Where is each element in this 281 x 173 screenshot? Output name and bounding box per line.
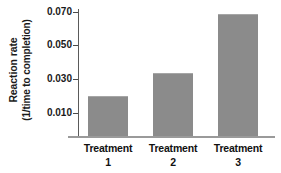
y-axis-spine bbox=[78, 9, 79, 137]
x-label-treatment-3-number: 3 bbox=[201, 155, 275, 169]
y-tick-mark-0050 bbox=[73, 45, 78, 46]
x-label-treatment-1: Treatment 1 bbox=[71, 141, 145, 169]
y-tick-label-0030: 0.030 bbox=[30, 73, 72, 84]
x-axis-spine bbox=[68, 136, 275, 138]
x-label-treatment-1-name: Treatment bbox=[84, 142, 132, 154]
x-label-treatment-1-number: 1 bbox=[71, 155, 145, 169]
y-axis-ticks: 0.070 0.050 0.030 0.010 bbox=[0, 0, 78, 173]
x-label-treatment-2: Treatment 2 bbox=[136, 141, 210, 169]
y-tick-mark-0010 bbox=[73, 113, 78, 114]
y-tick-mark-0030 bbox=[73, 79, 78, 80]
y-tick-label-0070: 0.070 bbox=[30, 6, 72, 17]
y-tick-mark-0070 bbox=[73, 12, 78, 13]
bar-chart-figure: Reaction rate (1/time to completion) 0.0… bbox=[0, 0, 281, 173]
y-tick-label-0010: 0.010 bbox=[30, 107, 72, 118]
bar-treatment-2 bbox=[153, 73, 193, 136]
x-label-treatment-3: Treatment 3 bbox=[201, 141, 275, 169]
bar-treatment-3 bbox=[218, 14, 258, 136]
y-tick-label-0050: 0.050 bbox=[30, 39, 72, 50]
x-label-treatment-3-name: Treatment bbox=[214, 142, 262, 154]
x-label-treatment-2-name: Treatment bbox=[149, 142, 197, 154]
x-label-treatment-2-number: 2 bbox=[136, 155, 210, 169]
bar-treatment-1 bbox=[88, 96, 128, 136]
